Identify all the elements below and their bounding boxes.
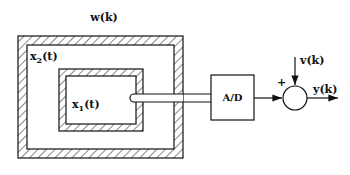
- ad-converter-block: A/D: [211, 75, 254, 120]
- plus-sign: +: [277, 76, 286, 89]
- svg-text:x2(t): x2(t): [30, 50, 58, 65]
- outer-state-label: x2(t): [30, 50, 58, 65]
- sensor-probe: [130, 94, 211, 102]
- noise-label: v(k): [299, 54, 324, 67]
- diagram-canvas: A/D w(k) x2(t) x1(t) v(k) + y(k): [0, 0, 350, 175]
- ad-converter-label: A/D: [221, 92, 242, 103]
- summing-junction: [283, 86, 307, 110]
- output-label: y(k): [312, 83, 337, 96]
- svg-text:x1(t): x1(t): [72, 98, 100, 113]
- inner-state-label: x1(t): [72, 98, 100, 113]
- disturbance-label: w(k): [89, 11, 118, 24]
